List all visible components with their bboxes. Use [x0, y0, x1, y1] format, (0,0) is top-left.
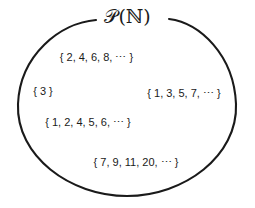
set-member-excluding-three: { 1, 2, 4, 5, 6, ⋯ } [0, 117, 176, 128]
set-member-even-numbers: { 2, 4, 6, 8, ⋯ } [0, 52, 193, 63]
set-member-arbitrary: { 7, 9, 11, 20, ⋯ } [48, 157, 224, 168]
set-member-odd-numbers: { 1, 3, 5, 7, ⋯ } [126, 88, 242, 99]
set-boundary-ellipse [0, 0, 255, 208]
power-set-title: 𝒫(ℕ) [0, 7, 255, 26]
set-member-singleton-three: { 3 } [0, 86, 86, 97]
power-set-diagram: 𝒫(ℕ) { 2, 4, 6, 8, ⋯ } { 3 } { 1, 3, 5, … [0, 0, 255, 208]
ellipse-outline-path [18, 19, 236, 196]
